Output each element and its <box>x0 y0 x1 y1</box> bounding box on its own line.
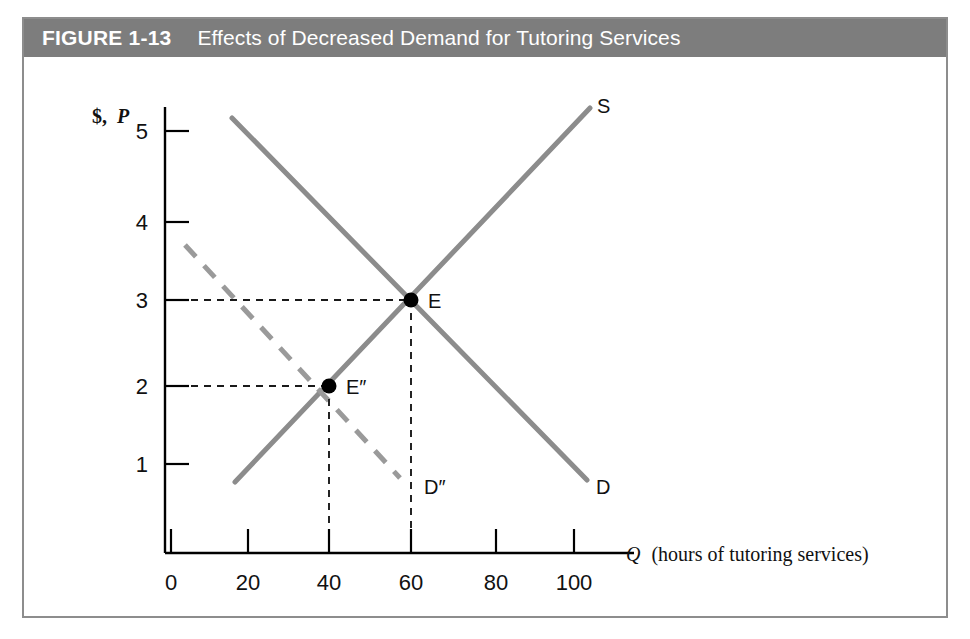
equilibrium-point-E <box>404 293 419 308</box>
label-demand-curve: D <box>596 476 610 498</box>
figure-title: Effects of Decreased Demand for Tutoring… <box>197 26 680 50</box>
label-equilibrium-E-double-prime: E″ <box>346 376 366 398</box>
x-tick-label-80: 80 <box>484 570 508 595</box>
x-tick-label-40: 40 <box>317 570 341 595</box>
label-demand-curve-shifted: D″ <box>424 476 446 498</box>
label-supply-curve: S <box>597 95 610 117</box>
y-tick-label-3: 3 <box>136 288 148 313</box>
x-tick-label-60: 60 <box>399 570 423 595</box>
y-tick-label-4: 4 <box>136 210 148 235</box>
chart-plot-area: 5 4 3 2 1 0 20 40 60 80 100 E E″ S D D″ … <box>24 57 946 620</box>
x-tick-label-20: 20 <box>236 570 260 595</box>
demand-curve-shifted <box>185 245 400 478</box>
y-axis-title-p: P <box>116 105 130 127</box>
y-tick-label-1: 1 <box>136 452 148 477</box>
x-axis-title: Q (hours of tutoring services) <box>626 543 869 566</box>
y-axis-title-dollar: $, <box>92 105 107 127</box>
y-tick-label-2: 2 <box>136 374 148 399</box>
y-axis-title: $, P <box>92 105 130 127</box>
figure-number: FIGURE 1-13 <box>42 26 171 50</box>
label-equilibrium-E: E <box>428 290 441 312</box>
figure-frame: FIGURE 1-13 Effects of Decreased Demand … <box>22 17 948 618</box>
figure-header: FIGURE 1-13 Effects of Decreased Demand … <box>24 19 946 57</box>
y-tick-label-5: 5 <box>136 119 148 144</box>
x-axis-title-q: Q <box>626 543 641 565</box>
x-axis-title-rest: (hours of tutoring services) <box>651 543 868 566</box>
equilibrium-point-E-double-prime <box>322 379 337 394</box>
x-tick-label-100: 100 <box>556 570 593 595</box>
x-tick-label-0: 0 <box>165 570 177 595</box>
supply-demand-chart: 5 4 3 2 1 0 20 40 60 80 100 E E″ S D D″ … <box>24 57 950 620</box>
